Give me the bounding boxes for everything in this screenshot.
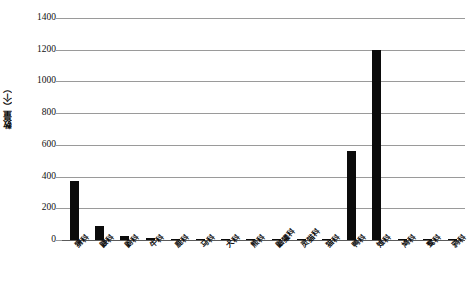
bar-slot <box>163 18 188 240</box>
y-tick-label: 800 <box>18 107 56 117</box>
y-tick-mark <box>56 240 62 241</box>
bar-slot <box>440 18 465 240</box>
bar-slot <box>415 18 440 240</box>
bar <box>372 50 381 240</box>
y-tick-label: 1400 <box>18 12 56 22</box>
y-tick-label: 0 <box>18 234 56 244</box>
bar-slot <box>112 18 137 240</box>
bar-slot <box>138 18 163 240</box>
y-tick-label: 200 <box>18 202 56 212</box>
bar-slot <box>339 18 364 240</box>
bar <box>347 151 356 240</box>
bar-slot <box>213 18 238 240</box>
bar-slot <box>314 18 339 240</box>
y-axis-title: 数量（个） <box>2 84 16 129</box>
bar-slot <box>289 18 314 240</box>
bar-slot <box>188 18 213 240</box>
y-tick-label: 400 <box>18 171 56 181</box>
plot-area: 0200400600800100012001400 <box>62 18 465 240</box>
bar-slot <box>364 18 389 240</box>
y-tick-label: 1200 <box>18 44 56 54</box>
bar-slot <box>238 18 263 240</box>
bar <box>70 181 79 240</box>
bars-layer <box>62 18 465 240</box>
bar-slot <box>389 18 414 240</box>
bar-slot <box>87 18 112 240</box>
bar-slot <box>264 18 289 240</box>
bar-chart: 数量（个） 0200400600800100012001400 猬科鼹科鼩科牛科… <box>0 0 474 285</box>
y-tick-label: 600 <box>18 139 56 149</box>
y-tick-label: 1000 <box>18 75 56 85</box>
bar-slot <box>62 18 87 240</box>
x-axis-labels: 猬科鼹科鼩科牛科鹿科马科犬科熊科鼬獾科灵猫科猫科鸭科雉科鸠科鹭科鸦科 <box>62 242 465 285</box>
